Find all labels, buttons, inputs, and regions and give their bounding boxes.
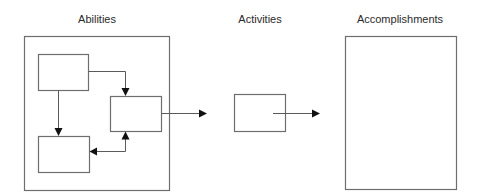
activities-label: Activities xyxy=(238,13,281,25)
arrowhead-right-icon xyxy=(312,110,320,118)
ability-box-top-left xyxy=(39,55,89,91)
ability-box-right xyxy=(111,97,162,132)
arrowhead-right-icon xyxy=(199,110,207,118)
ability-box-bottom-left xyxy=(39,137,90,173)
accomplishments-label: Accomplishments xyxy=(357,13,443,25)
abilities-label: Abilities xyxy=(78,13,116,25)
diagram-canvas xyxy=(0,0,477,196)
accomplishments-box xyxy=(346,37,457,190)
